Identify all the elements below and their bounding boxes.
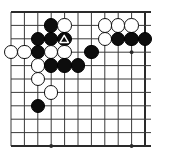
stone-white[interactable]: [31, 58, 45, 72]
stone-black[interactable]: [44, 18, 58, 32]
stone-white[interactable]: [124, 18, 138, 32]
stone-black[interactable]: [57, 32, 71, 46]
stone-black[interactable]: [31, 99, 45, 113]
stone-black[interactable]: [71, 58, 85, 72]
stone-white[interactable]: [44, 85, 58, 99]
stone-black[interactable]: [138, 32, 152, 46]
stone-black[interactable]: [124, 32, 138, 46]
star-point: [130, 50, 134, 54]
stone-black[interactable]: [44, 58, 58, 72]
stone-white[interactable]: [31, 72, 45, 86]
stone-white[interactable]: [111, 18, 125, 32]
go-diagram: [0, 0, 172, 167]
stone-black[interactable]: [57, 58, 71, 72]
star-point: [49, 144, 53, 148]
stone-white[interactable]: [98, 32, 112, 46]
stone-white[interactable]: [57, 45, 71, 59]
star-point: [130, 144, 134, 148]
stone-white[interactable]: [98, 18, 112, 32]
stone-white[interactable]: [57, 18, 71, 32]
go-board: [0, 0, 172, 167]
stone-black[interactable]: [84, 45, 98, 59]
stone-black[interactable]: [31, 32, 45, 46]
stone-white[interactable]: [17, 45, 31, 59]
